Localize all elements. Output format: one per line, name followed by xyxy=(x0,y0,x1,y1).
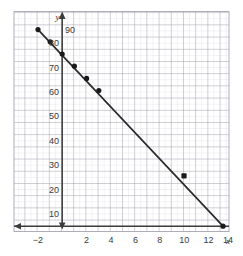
data-point xyxy=(84,76,89,81)
x-tick-label: 2 xyxy=(84,235,89,245)
data-point xyxy=(220,224,225,229)
y-axis-label: y xyxy=(55,12,60,22)
y-tick-label: 80 xyxy=(49,38,59,48)
data-point xyxy=(181,173,186,178)
data-point xyxy=(35,27,40,32)
y-tick-label: 60 xyxy=(49,87,59,97)
y-tick-label: 50 xyxy=(49,111,59,121)
data-point xyxy=(60,51,65,56)
data-point xyxy=(72,64,77,69)
y-tick-label: 30 xyxy=(49,160,59,170)
x-tick-label: 10 xyxy=(179,235,189,245)
x-tick-label: 12 xyxy=(204,235,214,245)
y-tick-label: 90 xyxy=(65,25,75,35)
x-tick-label: 4 xyxy=(108,235,113,245)
y-tick-label: 10 xyxy=(49,209,59,219)
x-tick-label: 6 xyxy=(133,235,138,245)
x-axis-label: x xyxy=(225,236,230,246)
data-point xyxy=(96,88,101,93)
graph-figure: −2 2 4 6 8 10 12 14 10 20 30 40 50 60 70… xyxy=(0,0,243,256)
y-tick-label: 20 xyxy=(49,185,59,195)
x-tick-label: 8 xyxy=(157,235,162,245)
coordinate-plane: −2 2 4 6 8 10 12 14 10 20 30 40 50 60 70… xyxy=(0,0,243,256)
y-tick-label: 40 xyxy=(49,136,59,146)
y-tick-label: 70 xyxy=(49,63,59,73)
x-tick-label: −2 xyxy=(33,235,43,245)
